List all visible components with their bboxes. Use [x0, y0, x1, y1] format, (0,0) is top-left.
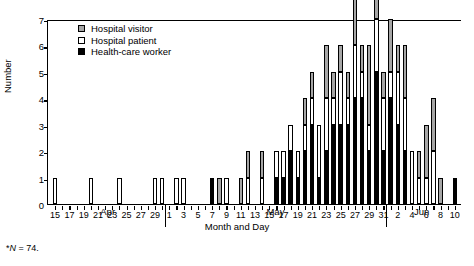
bar-segment-visitor [396, 45, 400, 71]
bar-segment-visitor [431, 98, 435, 151]
bar-segment-worker [396, 125, 400, 204]
bar-segment-visitor [338, 45, 342, 71]
bar-jun-6 [424, 125, 428, 204]
bar-segment-patient [360, 72, 364, 98]
bar-segment-visitor [353, 0, 357, 45]
legend-item-visitor: Hospital visitor [78, 23, 171, 35]
bar-segment-patient [53, 178, 57, 204]
bar-segment-patient [246, 178, 250, 204]
bar-may-8 [217, 178, 221, 204]
legend-swatch-visitor-icon [78, 25, 85, 32]
y-tick-label-6: 6 [28, 42, 44, 52]
x-tick-mark-19 [191, 206, 192, 210]
bar-segment-patient [296, 151, 300, 177]
x-tick-label-apr-25: 25 [122, 211, 132, 220]
bar-segment-patient [324, 98, 328, 151]
bar-jun-3 [403, 45, 407, 204]
bar-jun-1 [388, 19, 392, 204]
bar-segment-visitor [239, 178, 243, 204]
x-tick-mark-45 [376, 206, 377, 210]
x-tick-mark-9 [119, 206, 120, 210]
x-tick-label-may-13: 13 [250, 211, 260, 220]
bar-segment-worker [367, 151, 371, 204]
bar-segment-worker [331, 125, 335, 204]
bar-segment-patient [281, 151, 285, 177]
bar-segment-worker [374, 72, 378, 204]
bar-may-20 [303, 98, 307, 204]
bar-segment-visitor [381, 72, 385, 98]
bar-segment-patient [89, 178, 93, 204]
x-tick-mark-47 [391, 206, 392, 210]
y-tick-label-7: 7 [28, 16, 44, 26]
bar-segment-patient [417, 178, 421, 204]
x-tick-label-may-19: 19 [293, 211, 303, 220]
y-tick-mark-1 [44, 180, 48, 181]
bar-apr-30 [160, 178, 164, 204]
x-tick-label-may-7: 7 [210, 211, 215, 220]
bar-segment-worker [338, 125, 342, 204]
bar-segment-patient [303, 125, 307, 151]
bar-segment-patient [396, 72, 400, 125]
x-tick-label-may-23: 23 [321, 211, 331, 220]
bar-segment-visitor [303, 98, 307, 124]
bar-may-19 [296, 151, 300, 204]
bar-may-28 [360, 45, 364, 204]
y-tick-mark-5 [44, 74, 48, 75]
bar-jun-7 [431, 98, 435, 204]
bar-segment-patient [374, 19, 378, 72]
bar-segment-patient [431, 151, 435, 204]
legend-item-patient: Hospital patient [78, 35, 171, 47]
y-tick-mark-2 [44, 153, 48, 154]
y-tick-mark-6 [44, 47, 48, 48]
bar-may-27 [353, 0, 357, 204]
bar-segment-patient [174, 178, 178, 204]
bar-may-7 [210, 178, 214, 204]
legend-swatch-patient-icon [78, 37, 85, 44]
footnote: *N = 74. [6, 243, 39, 253]
bar-segment-worker [274, 178, 278, 204]
x-tick-label-apr-15: 15 [50, 211, 60, 220]
bar-segment-visitor [331, 72, 335, 98]
y-tick-label-1: 1 [28, 175, 44, 185]
bar-segment-patient [367, 125, 371, 151]
x-tick-mark-5 [91, 206, 92, 210]
bar-segment-visitor [217, 178, 221, 204]
bar-may-23 [324, 45, 328, 204]
bar-segment-patient [424, 178, 428, 204]
x-tick-mark-15 [162, 206, 163, 210]
bar-segment-patient [338, 72, 342, 125]
legend-label-patient: Hospital patient [91, 35, 156, 47]
x-tick-mark-55 [448, 206, 449, 210]
y-tick-label-2: 2 [28, 148, 44, 158]
x-tick-mark-53 [433, 206, 434, 210]
x-tick-mark-33 [291, 206, 292, 210]
bar-segment-worker [388, 98, 392, 204]
bar-apr-20 [89, 178, 93, 204]
bar-apr-15 [53, 178, 57, 204]
bar-segment-worker [346, 125, 350, 204]
bar-segment-visitor [417, 151, 421, 177]
legend-label-worker: Health-care worker [91, 46, 171, 58]
bar-segment-visitor [246, 151, 250, 177]
x-tick-mark-1 [62, 206, 63, 210]
bar-segment-patient [410, 151, 414, 204]
legend-swatch-worker-icon [78, 48, 85, 55]
bar-jun-10 [453, 178, 457, 204]
bar-may-22 [317, 125, 321, 204]
x-tick-label-jun-2: 2 [395, 211, 400, 220]
bar-segment-visitor [374, 0, 378, 19]
month-label-may: May [266, 206, 284, 217]
x-tick-mark-11 [134, 206, 135, 210]
y-axis-label: Number [2, 59, 13, 93]
x-tick-label-may-1: 1 [167, 211, 172, 220]
bar-segment-worker [403, 151, 407, 204]
bar-segment-visitor [403, 45, 407, 98]
x-tick-mark-17 [176, 206, 177, 210]
bar-segment-worker [453, 178, 457, 204]
bar-segment-worker [288, 151, 292, 204]
x-tick-mark-21 [205, 206, 206, 210]
x-tick-label-jun-8: 8 [438, 211, 443, 220]
y-tick-label-4: 4 [28, 95, 44, 105]
bar-jun-4 [410, 151, 414, 204]
x-tick-mark-27 [248, 206, 249, 210]
